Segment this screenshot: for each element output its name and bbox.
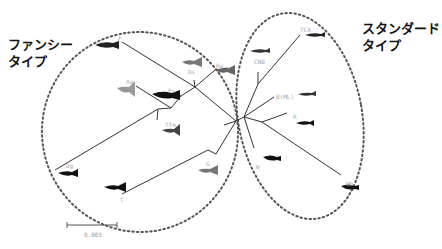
leaf-label-Aa: Aa	[126, 78, 133, 85]
fish-icon	[182, 57, 202, 67]
fish-icon	[296, 120, 314, 126]
leaf-label-Fs: Fs	[168, 87, 175, 94]
fish-icon	[58, 169, 78, 177]
fish-icon	[298, 91, 316, 96]
fish-icon	[104, 182, 126, 192]
tree-branches	[55, 35, 341, 194]
leaf-label-TCA: TCA	[300, 26, 311, 33]
leaf-label-Ra: Ra	[216, 62, 223, 69]
leaf-label-Dg: Dg	[66, 162, 73, 169]
leaf-label-Ds: Ds	[188, 68, 195, 75]
leaf-label-CNB: CNB	[254, 58, 265, 65]
fish-icon	[250, 48, 270, 53]
leaf-label-G: G	[206, 160, 210, 167]
leaf-label-R: R	[293, 113, 297, 120]
scale-bar-label: 0.005	[84, 231, 102, 238]
leaf-label-Tfm: Tfm	[165, 121, 176, 128]
leaf-label-F: F	[118, 35, 122, 42]
standard-type-label: スタンダード タイプ	[362, 20, 440, 54]
leaf-label-T: T	[120, 196, 124, 203]
leaf-label-W: W	[256, 163, 260, 170]
fish-images	[58, 32, 359, 192]
leaf-label-BML: B(ML)	[276, 93, 294, 100]
fancy-type-label: ファンシー タイプ	[8, 36, 73, 70]
leaf-label-Wb: Wb	[346, 180, 353, 187]
fish-icon	[263, 156, 281, 162]
